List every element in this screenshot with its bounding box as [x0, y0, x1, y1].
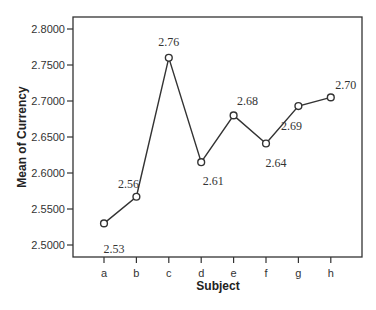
data-label: 2.56: [118, 177, 139, 191]
data-label: 2.68: [237, 94, 258, 108]
data-label: 2.53: [104, 242, 125, 256]
y-axis: 2.50002.55002.60002.65002.70002.75002.80…: [31, 23, 73, 251]
x-tick-label: d: [198, 267, 204, 279]
line-chart: 2.50002.55002.60002.65002.70002.75002.80…: [0, 0, 376, 310]
x-tick-label: f: [264, 267, 268, 279]
data-point-marker: [295, 103, 302, 110]
data-point-marker: [327, 94, 334, 101]
data-labels: 2.532.562.762.612.682.642.692.70: [104, 35, 357, 257]
x-tick-label: h: [328, 267, 334, 279]
x-tick-label: a: [101, 267, 108, 279]
y-tick-label: 2.7500: [31, 59, 65, 71]
data-point-marker: [133, 193, 140, 200]
x-tick-label: b: [133, 267, 139, 279]
data-point-marker: [198, 159, 205, 166]
y-axis-title: Mean of Currency: [15, 86, 29, 188]
x-tick-label: c: [166, 267, 172, 279]
x-tick-label: g: [295, 267, 301, 279]
y-tick-label: 2.6500: [31, 131, 65, 143]
data-markers: [101, 54, 335, 226]
y-tick-label: 2.7000: [31, 95, 65, 107]
x-tick-label: e: [231, 267, 237, 279]
data-label: 2.69: [281, 119, 302, 133]
data-label: 2.64: [266, 156, 287, 170]
y-tick-label: 2.5000: [31, 239, 65, 251]
data-label: 2.76: [158, 35, 179, 49]
y-tick-label: 2.5500: [31, 203, 65, 215]
y-tick-label: 2.6000: [31, 167, 65, 179]
x-axis-title: Subject: [196, 279, 239, 293]
y-tick-label: 2.8000: [31, 23, 65, 35]
data-point-marker: [263, 140, 270, 147]
data-point-marker: [165, 54, 172, 61]
data-point-marker: [101, 220, 108, 227]
data-label: 2.70: [335, 78, 356, 92]
plot-frame: [73, 17, 362, 257]
x-axis: abcdefgh: [101, 257, 334, 279]
data-label: 2.61: [203, 174, 224, 188]
data-point-marker: [230, 112, 237, 119]
